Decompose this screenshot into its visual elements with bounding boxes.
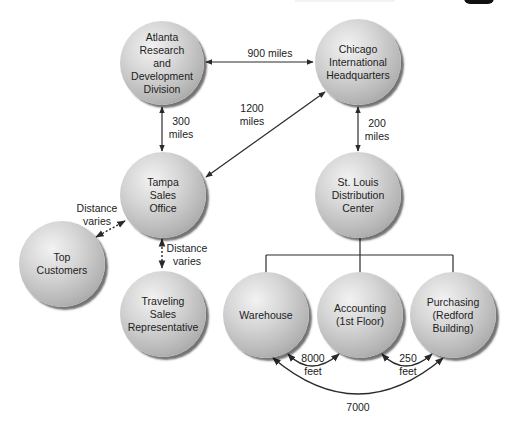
node-label: Atlanta Research and Development Divisio…	[129, 31, 195, 96]
edge-label-tampa-traveling: Distance varies	[162, 242, 212, 268]
edge-label-tampa-chicago: 1200 miles	[234, 102, 270, 128]
node-tampa: Tampa Sales Office	[120, 152, 206, 238]
node-traveling-sales-rep: Traveling Sales Representative	[120, 271, 206, 357]
edge-label-accounting-purchasing: 250 feet	[391, 352, 425, 378]
node-accounting: Accounting (1st Floor)	[317, 272, 403, 358]
node-warehouse: Warehouse	[223, 272, 309, 358]
node-label: Top Customers	[35, 251, 90, 277]
node-chicago: Chicago International Headquarters	[315, 19, 401, 105]
edge-label-chicago-stlouis: 200 miles	[359, 117, 395, 143]
node-purchasing: Purchasing (Redford Building)	[410, 272, 496, 358]
node-label: Chicago International Headquarters	[324, 43, 392, 82]
node-label: Accounting (1st Floor)	[332, 302, 388, 328]
node-label: Traveling Sales Representative	[126, 295, 201, 334]
node-label: Purchasing (Redford Building)	[425, 296, 482, 335]
node-label: Warehouse	[237, 309, 294, 322]
node-label: Tampa Sales Office	[145, 176, 181, 215]
edge-label-warehouse-purchasing: 7000	[338, 401, 378, 414]
edge-label-warehouse-accounting: 8000 feet	[296, 352, 330, 378]
edge-label-atlanta-chicago: 900 miles	[240, 47, 300, 60]
node-atlanta: Atlanta Research and Development Divisio…	[120, 21, 204, 105]
node-stlouis: St. Louis Distribution Center	[315, 152, 401, 238]
edge-label-atlanta-tampa: 300 miles	[163, 115, 199, 141]
edge-label-tampa-customers: Distance varies	[72, 202, 122, 228]
node-label: St. Louis Distribution Center	[330, 176, 387, 215]
node-top-customers: Top Customers	[19, 221, 105, 307]
org-tree-connector	[266, 238, 453, 274]
